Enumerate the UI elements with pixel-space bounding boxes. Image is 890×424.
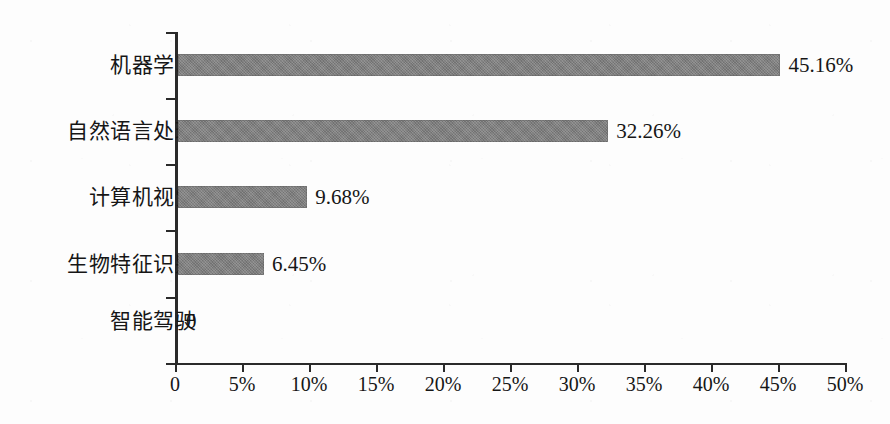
y-axis-tick	[166, 32, 176, 34]
y-axis-tick	[166, 164, 176, 166]
x-tick-label-3: 15%	[358, 374, 395, 394]
x-axis-tick	[510, 363, 512, 372]
x-axis-tick	[309, 363, 311, 372]
x-tick-label-8: 40%	[693, 374, 730, 394]
x-tick-label-2: 10%	[291, 374, 328, 394]
category-label-3: 生物特征识别	[67, 254, 196, 275]
bar-value-0: 45.16%	[788, 55, 853, 76]
bar-2	[178, 186, 307, 208]
bar-value-1: 32.26%	[616, 121, 681, 142]
category-label-1: 自然语言处理	[67, 121, 196, 142]
x-axis-tick	[242, 363, 244, 372]
x-tick-label-10: 50%	[827, 374, 864, 394]
bar-1	[178, 120, 608, 142]
bar-chart-plot-area: 机器学习 自然语言处理 计算机视觉 生物特征识别 智能驾驶 45.16% 32.…	[0, 0, 890, 424]
bar-0	[178, 54, 780, 76]
x-tick-label-9: 45%	[760, 374, 797, 394]
x-axis-tick	[711, 363, 713, 372]
x-axis-tick	[577, 363, 579, 372]
x-tick-label-6: 30%	[559, 374, 596, 394]
x-axis-tick	[443, 363, 445, 372]
y-axis-tick	[166, 230, 176, 232]
x-tick-label-5: 25%	[492, 374, 529, 394]
x-tick-label-7: 35%	[626, 374, 663, 394]
y-axis-tick	[166, 98, 176, 100]
category-label-4: 智能驾驶	[110, 311, 196, 332]
x-tick-label-0: 0	[170, 374, 180, 394]
chart-page: 机器学习 自然语言处理 计算机视觉 生物特征识别 智能驾驶 45.16% 32.…	[0, 0, 890, 424]
x-tick-label-4: 20%	[425, 374, 462, 394]
x-axis-tick	[778, 363, 780, 372]
y-axis-tick	[166, 297, 176, 299]
bar-value-4: 0	[186, 311, 197, 332]
x-axis-tick	[845, 363, 847, 372]
x-tick-label-1: 5%	[229, 374, 256, 394]
bar-value-2: 9.68%	[315, 187, 369, 208]
bar-value-3: 6.45%	[272, 254, 326, 275]
x-axis-tick	[175, 363, 177, 372]
x-axis-tick	[376, 363, 378, 372]
x-axis-tick	[644, 363, 646, 372]
bar-3	[178, 253, 264, 275]
